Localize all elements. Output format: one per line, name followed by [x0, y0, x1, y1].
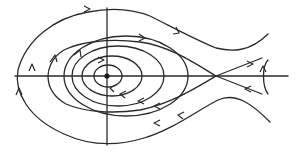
unstable-separatrix: [216, 58, 262, 76]
arrow-icon: [110, 85, 116, 92]
phase-portrait-diagram: [0, 0, 302, 152]
center-fixed-point: [104, 73, 109, 78]
stable-separatrix: [216, 76, 262, 94]
arrow-icon: [154, 120, 160, 126]
arrow-icon: [98, 57, 104, 63]
arrow-icon: [178, 112, 184, 119]
right-trajectory: [264, 60, 269, 94]
arrow-icon: [29, 64, 35, 71]
arrow-icon: [84, 6, 90, 12]
